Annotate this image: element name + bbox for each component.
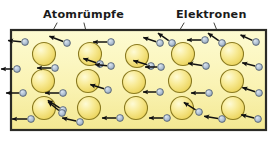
electron-dot [148, 63, 155, 70]
electron-dot [108, 63, 115, 70]
electron-dot [253, 39, 260, 46]
electron-dot [203, 63, 210, 70]
electron-dot [196, 109, 203, 116]
label-elektronen: Elektronen [176, 8, 247, 21]
electron-dot [202, 37, 209, 44]
electron-dot [164, 115, 171, 122]
atom-core [33, 97, 56, 120]
atom-core [123, 71, 146, 94]
atom-core [222, 97, 245, 120]
electron-dot [157, 40, 164, 47]
metal-lattice-figure: AtomrümpfeElektronen [0, 0, 277, 141]
electron-velocity-arrow [8, 41, 21, 42]
electron-dot [20, 90, 27, 97]
electron-dot [117, 115, 124, 122]
electron-dot [22, 39, 29, 46]
electron-dot [14, 66, 21, 73]
atom-core [169, 70, 192, 93]
electron-dot [77, 119, 84, 126]
electron-dot [97, 61, 104, 68]
electron-dot [256, 90, 263, 97]
electron-dot [169, 40, 176, 47]
atom-core [171, 97, 194, 120]
electron-dot [206, 90, 213, 97]
atom-core [78, 97, 101, 120]
electron-dot [64, 40, 71, 47]
atom-core [32, 70, 55, 93]
figure-canvas: AtomrümpfeElektronen [0, 0, 277, 141]
electron-dot [28, 116, 35, 123]
atom-core [33, 43, 56, 66]
electron-dot [219, 40, 226, 47]
atom-core [172, 43, 195, 66]
electron-dot [256, 64, 263, 71]
electron-dot [52, 65, 59, 72]
atom-core [77, 70, 100, 93]
label-atomruempfe: Atomrümpfe [43, 8, 124, 21]
electron-dot [255, 116, 262, 123]
electron-dot [108, 39, 115, 46]
electron-dot [219, 116, 226, 123]
atom-core [125, 97, 148, 120]
electron-dot [60, 90, 67, 97]
electron-dot [158, 64, 165, 71]
atom-core [221, 70, 244, 93]
electron-dot [105, 87, 112, 94]
electron-dot [59, 110, 66, 117]
electron-dot [157, 89, 164, 96]
